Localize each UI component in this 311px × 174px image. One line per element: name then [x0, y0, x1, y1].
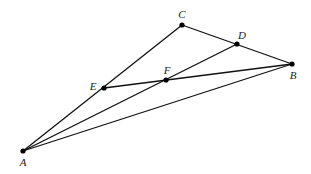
- labels: ABCDEF: [19, 8, 297, 168]
- segment-ad: [23, 44, 237, 151]
- label-d: D: [237, 29, 246, 41]
- point-a: [20, 148, 25, 153]
- label-b: B: [290, 69, 297, 81]
- label-a: A: [19, 156, 27, 168]
- segment-eb: [104, 64, 292, 88]
- segments: [23, 25, 292, 151]
- label-e: E: [89, 80, 97, 92]
- points: [20, 22, 294, 153]
- label-c: C: [178, 8, 186, 20]
- geometry-diagram: ABCDEF: [0, 0, 311, 174]
- label-f: F: [163, 64, 171, 76]
- segment-ab: [23, 64, 292, 151]
- point-b: [289, 61, 294, 66]
- point-c: [179, 22, 184, 27]
- point-e: [101, 85, 106, 90]
- point-d: [234, 41, 239, 46]
- point-f: [163, 77, 168, 82]
